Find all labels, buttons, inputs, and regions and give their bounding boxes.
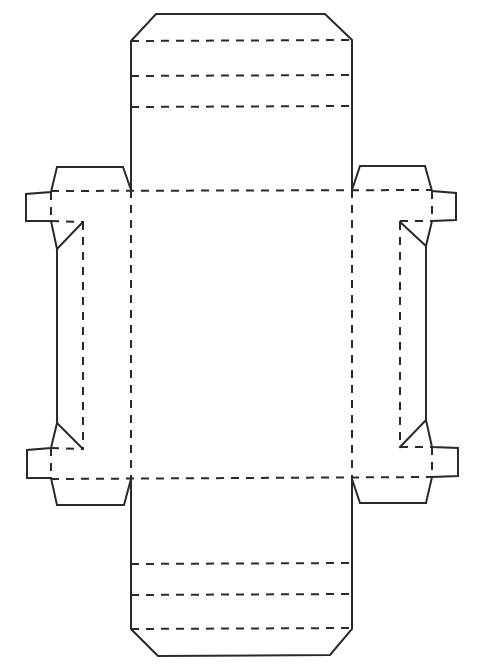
box-net-diagram [0, 0, 480, 670]
main-top-fold [51, 190, 432, 191]
bottom-fold-1 [131, 563, 352, 564]
cut-lines [26, 14, 458, 656]
left-lower-inner [51, 448, 83, 449]
right-lower-flap [352, 420, 458, 503]
left-lower-flap [27, 423, 131, 505]
main-bottom-fold [51, 477, 432, 479]
top-fold-1 [131, 40, 352, 41]
bottom-fold-3 [131, 628, 352, 629]
fold-lines [51, 40, 432, 629]
right-upper-flap [352, 166, 456, 246]
top-fold-2 [131, 75, 352, 76]
bottom-fold-2 [131, 594, 352, 595]
left-upper-inner [51, 221, 83, 222]
left-upper-flap [26, 167, 131, 249]
top-fold-3 [131, 106, 352, 107]
